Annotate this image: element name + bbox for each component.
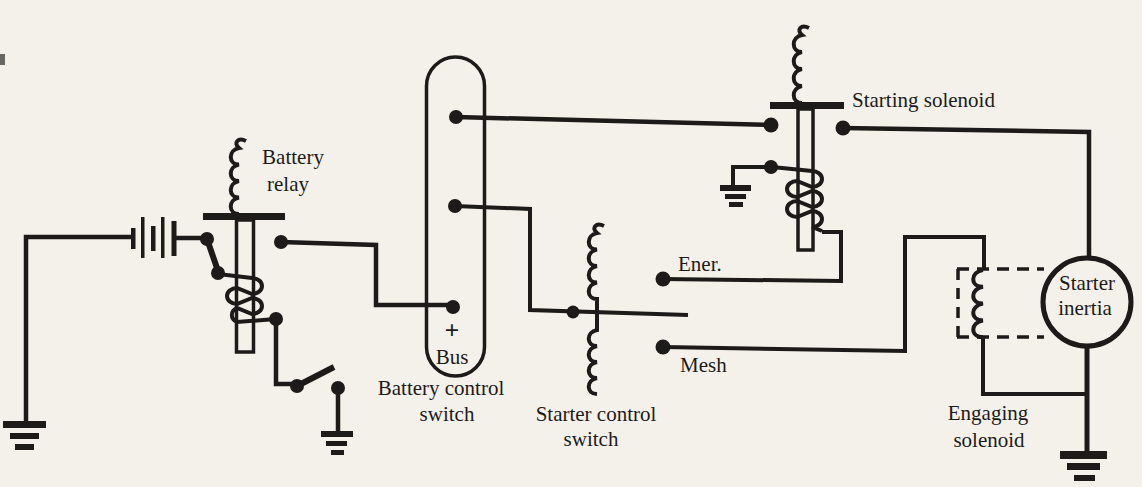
starter-control-switch — [589, 225, 604, 394]
battery-control-switch-label: Battery control switch — [378, 376, 505, 426]
battery-relay-label-line1: Battery — [262, 145, 324, 169]
engaging-solenoid-label-line2: solenoid — [953, 428, 1025, 452]
battery-control-switch-label-line1: Battery control — [378, 376, 505, 400]
starting-solenoid-label: Starting solenoid — [852, 88, 995, 112]
solenoid-plunger — [798, 109, 813, 250]
relay-spring-icon — [231, 140, 246, 214]
motor-ground-icon — [1060, 451, 1107, 481]
starting-solenoid — [720, 27, 851, 250]
schematic-figure: Battery relay + Bus Battery control swit… — [0, 0, 1142, 487]
engaging-solenoid-label-line1: Engaging — [948, 401, 1029, 425]
solenoid-spring-icon — [794, 27, 809, 103]
engaging-solenoid-label: Engaging solenoid — [948, 401, 1029, 452]
starter-switch-feed — [455, 206, 688, 319]
relay-ground-switch-arm — [297, 367, 334, 386]
starter-control-switch-label-line2: switch — [564, 427, 619, 451]
relay-ground-icon — [321, 431, 353, 455]
battery-icon — [131, 217, 177, 258]
battery-relay-label-line2: relay — [267, 172, 309, 196]
starter-inertia-label-line2: inertia — [1058, 296, 1112, 320]
scan-artifact — [0, 54, 5, 65]
starter-control-switch-label: Starter control switch — [536, 402, 657, 451]
bus-plus-sign: + — [445, 316, 460, 345]
mesh-label: Mesh — [680, 353, 727, 377]
solenoid-ground-icon — [720, 185, 751, 207]
relay-to-bus-wire — [281, 242, 448, 305]
bus-terminal-plus — [446, 300, 460, 314]
starter-control-coil-icon — [589, 225, 604, 394]
battery-control-switch: + Bus — [427, 57, 485, 376]
battery-ground-wire — [26, 237, 131, 421]
relay-ground-branch — [276, 319, 353, 455]
battery-ground-icon — [3, 421, 46, 450]
starter-inertia-label-line1: Starter — [1059, 271, 1115, 295]
battery-relay-label: Battery relay — [262, 145, 324, 196]
starter-switch-blade — [455, 206, 688, 315]
solenoid-input-terminal — [764, 118, 779, 133]
starter-switch-pivot — [567, 306, 580, 319]
battery-control-switch-label-line2: switch — [420, 402, 475, 426]
relay-plunger — [237, 220, 254, 352]
schematic-canvas: Battery relay + Bus Battery control swit… — [0, 0, 1142, 487]
starter-inertia-motor: Starter inertia — [1043, 258, 1131, 346]
engaging-coil-icon — [973, 270, 983, 337]
energize-label: Ener. — [678, 252, 722, 276]
starter-control-switch-label-line1: Starter control — [536, 402, 657, 426]
bus-label: Bus — [436, 345, 469, 369]
bus-to-solenoid-wire — [456, 117, 770, 125]
